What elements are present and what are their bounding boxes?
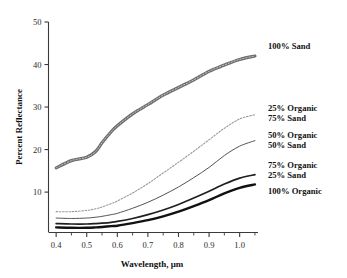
series-annotations: 100% Sand 25% Organic 75% Sand 50% Organ… xyxy=(268,41,322,196)
x-tick-label-0.5: 0.5 xyxy=(81,240,92,250)
y-axis-tick-labels: 1020304050 xyxy=(33,17,42,197)
x-tick-label-0.4: 0.4 xyxy=(51,240,62,250)
series-label-50-organic-line2: 50% Sand xyxy=(268,140,306,150)
series-label-25-organic-line2: 75% Sand xyxy=(268,113,306,123)
x-axis-tick-labels: 0.40.50.60.70.80.91.0 xyxy=(51,240,245,250)
x-axis-ticks xyxy=(56,233,255,238)
series-label-100-organic: 100% Organic xyxy=(268,186,322,196)
y-tick-label-10: 10 xyxy=(33,187,42,197)
reflectance-line-chart: 1020304050 0.40.50.60.70.80.91.0 Percent… xyxy=(0,0,347,278)
data-curves xyxy=(56,46,265,228)
chart-figure: 1020304050 0.40.50.60.70.80.91.0 Percent… xyxy=(0,0,347,278)
series-label-75-organic-line1: 75% Organic xyxy=(268,160,318,170)
curve-100-sand xyxy=(56,56,255,168)
label-leader xyxy=(255,46,265,56)
y-tick-label-30: 30 xyxy=(33,102,42,112)
y-tick-label-40: 40 xyxy=(33,60,42,70)
curve-100-organic xyxy=(56,184,255,227)
y-tick-label-50: 50 xyxy=(33,17,42,27)
curve-75-organic-25-sand xyxy=(56,175,255,224)
curve-texture-overlay xyxy=(56,56,255,168)
y-axis-ticks xyxy=(45,22,49,192)
x-tick-label-0.6: 0.6 xyxy=(112,240,123,250)
label-leader xyxy=(255,141,265,145)
x-tick-label-0.8: 0.8 xyxy=(173,240,184,250)
label-leader xyxy=(255,115,265,118)
y-tick-label-20: 20 xyxy=(33,145,42,155)
plot-axes xyxy=(49,22,259,233)
series-label-100-sand: 100% Sand xyxy=(268,41,310,51)
series-label-75-organic-line2: 25% Sand xyxy=(268,170,306,180)
series-label-25-organic-line1: 25% Organic xyxy=(268,103,318,113)
x-tick-label-0.7: 0.7 xyxy=(143,240,154,250)
curve-50-organic-50-sand xyxy=(56,141,255,219)
series-label-50-organic-line1: 50% Organic xyxy=(268,130,318,140)
x-tick-label-1.0: 1.0 xyxy=(234,240,245,250)
x-axis-title: Wavelength, μm xyxy=(121,259,184,269)
label-leader xyxy=(255,184,265,191)
y-axis-title: Percent Reflectance xyxy=(14,89,24,165)
curve-25-organic-75-sand xyxy=(56,115,255,212)
x-tick-label-0.9: 0.9 xyxy=(204,240,215,250)
